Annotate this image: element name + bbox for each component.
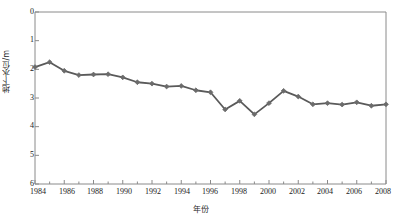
plot-area bbox=[0, 0, 401, 219]
data-markers bbox=[33, 60, 389, 117]
axis-ticks bbox=[35, 12, 386, 184]
x-axis-title: 年份 bbox=[0, 203, 401, 214]
data-line bbox=[35, 62, 386, 114]
axis-frame bbox=[35, 12, 386, 184]
groundwater-level-line-chart: 地下水位/m 0 1 2 3 4 5 6 1984 1986 1988 1990… bbox=[0, 0, 401, 219]
